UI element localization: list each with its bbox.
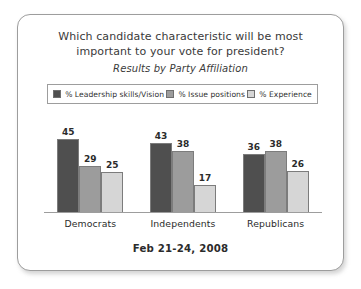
bar-value-label: 26 bbox=[291, 159, 304, 170]
bar bbox=[287, 171, 309, 214]
chart-footer-date: Feb 21-24, 2008 bbox=[18, 243, 343, 254]
legend-swatch-icon-leadership bbox=[53, 90, 61, 98]
chart-card: Which candidate characteristic will be m… bbox=[17, 14, 344, 271]
bar-item: 45 bbox=[57, 115, 79, 213]
legend-label-leadership: % Leadership skills/Vision bbox=[65, 90, 164, 99]
bar-item: 38 bbox=[172, 115, 194, 213]
bar bbox=[101, 172, 123, 213]
bar-item: 25 bbox=[101, 115, 123, 213]
bar bbox=[150, 143, 172, 213]
chart-plot-area: 452925433817363826 bbox=[44, 115, 322, 213]
bar-group-democrats: 452925 bbox=[57, 115, 123, 213]
x-axis-label-democrats: Democrats bbox=[51, 218, 129, 229]
legend-entry-experience: % Experience bbox=[247, 90, 312, 99]
legend-swatch-icon-experience bbox=[247, 90, 255, 98]
bar-group-republicans: 363826 bbox=[243, 115, 309, 213]
legend-entry-issues: % Issue positions bbox=[166, 90, 245, 99]
chart-title-line-1: Which candidate characteristic will be m… bbox=[18, 29, 343, 44]
legend-entry-leadership: % Leadership skills/Vision bbox=[53, 90, 164, 99]
bar bbox=[265, 151, 287, 213]
bar-item: 17 bbox=[194, 115, 216, 213]
bar-value-label: 29 bbox=[84, 154, 97, 165]
bar bbox=[243, 154, 265, 213]
legend-label-issues: % Issue positions bbox=[178, 90, 245, 99]
x-axis-label-republicans: Republicans bbox=[237, 218, 315, 229]
bar-value-label: 43 bbox=[155, 131, 168, 142]
x-axis-labels: DemocratsIndependentsRepublicans bbox=[44, 218, 322, 229]
chart-title-line-2: important to your vote for president? bbox=[18, 44, 343, 59]
legend-swatch-icon-issues bbox=[166, 90, 174, 98]
bar bbox=[194, 185, 216, 213]
bar-value-label: 36 bbox=[247, 142, 260, 153]
bar-item: 26 bbox=[287, 115, 309, 213]
bar-value-label: 25 bbox=[106, 160, 119, 171]
x-axis-label-independents: Independents bbox=[144, 218, 222, 229]
bar-groups: 452925433817363826 bbox=[44, 115, 322, 213]
bar bbox=[172, 151, 194, 213]
bar bbox=[79, 166, 101, 213]
bar-value-label: 45 bbox=[62, 127, 75, 138]
bar-value-label: 17 bbox=[199, 173, 212, 184]
bar-value-label: 38 bbox=[269, 139, 282, 150]
bar-group-independents: 433817 bbox=[150, 115, 216, 213]
x-axis-line bbox=[44, 212, 322, 213]
bar-item: 43 bbox=[150, 115, 172, 213]
bar-item: 36 bbox=[243, 115, 265, 213]
chart-legend: % Leadership skills/Vision % Issue posit… bbox=[47, 84, 318, 104]
chart-subtitle: Results by Party Affiliation bbox=[18, 61, 343, 77]
bar-value-label: 38 bbox=[177, 139, 190, 150]
bar bbox=[57, 139, 79, 213]
chart-title-block: Which candidate characteristic will be m… bbox=[18, 29, 343, 77]
bar-item: 38 bbox=[265, 115, 287, 213]
legend-label-experience: % Experience bbox=[259, 90, 312, 99]
bar-item: 29 bbox=[79, 115, 101, 213]
